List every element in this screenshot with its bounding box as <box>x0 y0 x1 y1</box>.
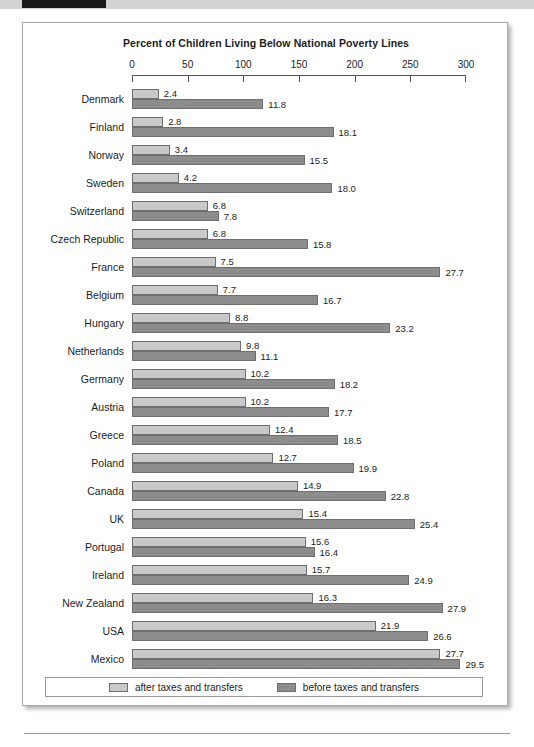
chart-row: Switzerland6.87.8 <box>132 200 466 228</box>
bar-before-taxes <box>132 127 334 137</box>
bar-value-after: 7.5 <box>221 256 234 267</box>
bar-before-taxes <box>132 435 338 445</box>
bar-value-before: 11.8 <box>268 99 286 110</box>
page-bottom-rule <box>24 733 510 734</box>
bar-value-after: 8.8 <box>235 312 248 323</box>
category-label: Poland <box>91 457 124 469</box>
legend-label: before taxes and transfers <box>303 682 419 693</box>
bar-value-after: 3.4 <box>175 144 188 155</box>
chart-row: Germany10.218.2 <box>132 368 466 396</box>
chart-row: Austria10.217.7 <box>132 396 466 424</box>
bar-before-taxes <box>132 603 443 613</box>
chart-row: New Zealand16.327.9 <box>132 592 466 620</box>
bar-before-taxes <box>132 631 428 641</box>
chart-row: Czech Republic6.815.8 <box>132 228 466 256</box>
legend-swatch-icon <box>109 683 128 692</box>
bar-value-after: 2.4 <box>164 88 177 99</box>
scan-black-mark <box>22 0 106 8</box>
bar-value-after: 10.2 <box>251 368 270 379</box>
bar-after-taxes <box>132 453 273 463</box>
bar-value-before: 18.1 <box>339 127 358 138</box>
bar-after-taxes <box>132 341 241 351</box>
x-tick-label: 150 <box>291 59 308 70</box>
category-label: Finland <box>90 121 124 133</box>
x-axis-tick <box>243 75 244 82</box>
plot-area: 050100150200250300 Denmark2.411.8Finland… <box>132 59 466 676</box>
category-label: Belgium <box>86 289 124 301</box>
bar-before-taxes <box>132 575 409 585</box>
bar-value-before: 18.0 <box>337 183 356 194</box>
category-label: Denmark <box>81 93 124 105</box>
legend-swatch-icon <box>277 683 296 692</box>
category-label: Switzerland <box>70 205 124 217</box>
bar-value-after: 21.9 <box>381 620 400 631</box>
x-tick-label: 250 <box>402 59 419 70</box>
bar-value-before: 17.7 <box>334 407 353 418</box>
scan-top-strip <box>0 0 534 9</box>
category-label: Canada <box>87 485 124 497</box>
category-label: Germany <box>81 373 124 385</box>
bar-after-taxes <box>132 481 298 491</box>
bar-before-taxes <box>132 463 354 473</box>
bar-value-before: 7.8 <box>224 211 237 222</box>
chart-row: Norway3.415.5 <box>132 144 466 172</box>
bar-value-before: 15.5 <box>310 155 329 166</box>
bar-before-taxes <box>132 99 263 109</box>
bar-value-after: 15.7 <box>312 564 331 575</box>
chart-row: Poland12.719.9 <box>132 452 466 480</box>
bar-value-before: 16.4 <box>320 547 339 558</box>
chart-row: Belgium7.716.7 <box>132 284 466 312</box>
x-axis-tick <box>188 75 189 82</box>
chart-row: France7.527.7 <box>132 256 466 284</box>
bar-after-taxes <box>132 313 230 323</box>
category-label: Czech Republic <box>50 233 124 245</box>
bar-after-taxes <box>132 369 246 379</box>
chart-title: Percent of Children Living Below Nationa… <box>23 37 509 49</box>
bar-value-after: 10.2 <box>251 396 270 407</box>
chart-row: USA21.926.6 <box>132 620 466 648</box>
bar-value-after: 4.2 <box>184 172 197 183</box>
category-label: USA <box>102 625 124 637</box>
chart-row: Hungary8.823.2 <box>132 312 466 340</box>
bar-value-before: 19.9 <box>359 463 378 474</box>
bar-after-taxes <box>132 397 246 407</box>
category-label: New Zealand <box>62 597 124 609</box>
chart-row: UK15.425.4 <box>132 508 466 536</box>
chart-row: Sweden4.218.0 <box>132 172 466 200</box>
chart-row: Netherlands9.811.1 <box>132 340 466 368</box>
chart-row: Ireland15.724.9 <box>132 564 466 592</box>
bar-before-taxes <box>132 407 329 417</box>
bar-value-after: 9.8 <box>246 340 259 351</box>
bar-after-taxes <box>132 285 218 295</box>
bar-after-taxes <box>132 229 208 239</box>
bar-value-after: 6.8 <box>213 228 226 239</box>
x-tick-label: 300 <box>458 59 475 70</box>
bar-before-taxes <box>132 183 332 193</box>
bar-after-taxes <box>132 621 376 631</box>
bar-value-before: 27.9 <box>448 603 467 614</box>
bar-value-after: 12.4 <box>275 424 294 435</box>
bar-after-taxes <box>132 593 313 603</box>
bar-before-taxes <box>132 211 219 221</box>
bar-value-after: 2.8 <box>168 116 181 127</box>
chart-row: Canada14.922.8 <box>132 480 466 508</box>
bar-before-taxes <box>132 351 256 361</box>
category-label: Ireland <box>92 569 124 581</box>
legend-item: before taxes and transfers <box>277 682 419 693</box>
category-label: UK <box>109 513 124 525</box>
category-label: France <box>91 261 124 273</box>
bar-before-taxes <box>132 519 415 529</box>
chart-row: Mexico27.729.5 <box>132 648 466 676</box>
bar-after-taxes <box>132 173 179 183</box>
bar-value-before: 24.9 <box>414 575 433 586</box>
bar-value-after: 14.9 <box>303 480 322 491</box>
bar-before-taxes <box>132 547 315 557</box>
x-tick-label: 50 <box>182 59 193 70</box>
bar-after-taxes <box>132 425 270 435</box>
category-label: Austria <box>91 401 124 413</box>
bar-value-after: 6.8 <box>213 200 226 211</box>
bar-before-taxes <box>132 491 386 501</box>
bar-before-taxes <box>132 267 440 277</box>
category-label: Greece <box>90 429 124 441</box>
bar-rows: Denmark2.411.8Finland2.818.1Norway3.415.… <box>132 88 466 676</box>
